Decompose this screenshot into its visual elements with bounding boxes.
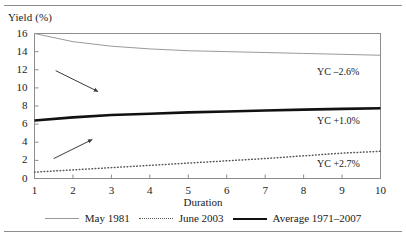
y-tick-label: 10	[6, 81, 28, 93]
arrow-to-may-1981	[56, 71, 98, 92]
x-tick-label: 5	[178, 184, 198, 196]
x-tick-label: 2	[63, 184, 83, 196]
x-tick-label: 3	[101, 184, 121, 196]
x-tick-label: 1	[25, 184, 45, 196]
x-tick-label: 10	[371, 184, 391, 196]
axis-ticks	[35, 34, 381, 179]
chart-legend: May 1981June 2003Average 1971–2007	[0, 210, 406, 226]
legend-item: Average 1971–2007	[233, 212, 362, 224]
legend-label: May 1981	[85, 212, 130, 224]
annotation-arrows	[54, 71, 98, 159]
x-tick-label: 7	[255, 184, 275, 196]
y-tick-label: 14	[6, 45, 28, 57]
y-tick-label: 4	[6, 135, 28, 147]
x-tick-label: 8	[294, 184, 314, 196]
figure: Yield (%) Duration 0246810121416 1234567…	[0, 0, 406, 244]
y-tick-label: 16	[6, 27, 28, 39]
legend-item: June 2003	[139, 212, 224, 224]
yc-average: YC +1.0%	[317, 115, 360, 126]
legend-label: June 2003	[179, 212, 224, 224]
y-tick-label: 8	[6, 99, 28, 111]
series-line	[35, 34, 381, 56]
x-tick-label: 4	[140, 184, 160, 196]
legend-label: Average 1971–2007	[273, 212, 362, 224]
y-tick-label: 2	[6, 153, 28, 165]
yc-june-2003: YC +2.7%	[317, 158, 360, 169]
y-tick-label: 6	[6, 117, 28, 129]
yc-may-1981: YC –2.6%	[317, 66, 359, 77]
y-tick-label: 12	[6, 63, 28, 75]
x-tick-label: 9	[332, 184, 352, 196]
legend-item: May 1981	[45, 212, 130, 224]
arrow-to-june-2003	[54, 140, 92, 159]
axes-frame	[35, 34, 381, 179]
x-tick-label: 6	[217, 184, 237, 196]
series-lines	[35, 34, 381, 173]
y-tick-label: 0	[6, 172, 28, 184]
